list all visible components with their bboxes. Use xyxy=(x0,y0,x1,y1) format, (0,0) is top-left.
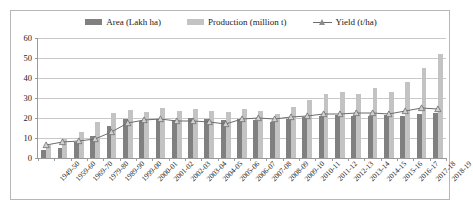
bar-production[interactable] xyxy=(193,109,198,158)
bar-production[interactable] xyxy=(177,111,182,158)
bar-production[interactable] xyxy=(79,132,84,158)
bar-production[interactable] xyxy=(46,145,51,158)
bar-group xyxy=(139,38,149,158)
bar-group xyxy=(188,38,198,158)
bar-group xyxy=(368,38,378,158)
plot-wrapper: 0102030405060 1949-501959-601969-701979-… xyxy=(11,31,451,199)
bar-group xyxy=(41,38,51,158)
bar-production[interactable] xyxy=(307,100,312,158)
bar-production[interactable] xyxy=(422,68,427,158)
y-axis-tick-label: 50 xyxy=(10,54,32,63)
bar-group xyxy=(253,38,263,158)
bar-production[interactable] xyxy=(62,139,67,158)
y-axis-tick-label: 40 xyxy=(10,74,32,83)
bar-production[interactable] xyxy=(258,111,263,158)
legend-label-area: Area (Lakh ha) xyxy=(106,17,161,27)
bar-group xyxy=(221,38,231,158)
legend-label-production: Production (million t) xyxy=(208,17,287,27)
area-swatch-icon xyxy=(85,19,102,25)
bar-group xyxy=(204,38,214,158)
chart-container: Area (Lakh ha) Production (million t) Yi… xyxy=(10,10,450,200)
x-axis-labels: 1949-501959-601969-701979-801989-901999-… xyxy=(37,160,445,199)
chart-legend: Area (Lakh ha) Production (million t) Yi… xyxy=(11,14,451,30)
bar-production[interactable] xyxy=(226,112,231,158)
bar-group xyxy=(433,38,443,158)
bar-production[interactable] xyxy=(242,109,247,158)
bar-production[interactable] xyxy=(340,92,345,158)
bar-production[interactable] xyxy=(324,94,329,158)
legend-item-production[interactable]: Production (million t) xyxy=(187,17,287,27)
x-tickmark xyxy=(446,158,447,161)
bar-group xyxy=(123,38,133,158)
bar-group xyxy=(172,38,182,158)
y-axis-tick-label: 20 xyxy=(10,114,32,123)
production-swatch-icon xyxy=(187,19,204,25)
bar-production[interactable] xyxy=(275,114,280,158)
bar-group xyxy=(384,38,394,158)
bar-production[interactable] xyxy=(389,92,394,158)
y-axis: 0102030405060 xyxy=(11,31,35,159)
legend-label-yield: Yield (t/ha) xyxy=(336,17,377,27)
bar-group xyxy=(351,38,361,158)
bar-production[interactable] xyxy=(373,88,378,158)
legend-item-yield[interactable]: Yield (t/ha) xyxy=(313,17,377,27)
bar-production[interactable] xyxy=(356,94,361,158)
bar-group xyxy=(400,38,410,158)
bar-group xyxy=(107,38,117,158)
bar-production[interactable] xyxy=(111,113,116,158)
bar-production[interactable] xyxy=(128,110,133,158)
yield-line-marker-icon xyxy=(313,18,332,26)
bar-group xyxy=(74,38,84,158)
y-axis-tick-label: 60 xyxy=(10,34,32,43)
bar-group xyxy=(335,38,345,158)
y-axis-tick-label: 0 xyxy=(10,154,32,163)
bar-group xyxy=(237,38,247,158)
y-axis-tick-label: 10 xyxy=(10,134,32,143)
bar-production[interactable] xyxy=(144,112,149,158)
bar-group xyxy=(319,38,329,158)
bar-group xyxy=(417,38,427,158)
bar-group xyxy=(270,38,280,158)
bars-layer xyxy=(38,38,446,158)
bar-production[interactable] xyxy=(209,111,214,158)
plot-area xyxy=(37,38,446,159)
bar-group xyxy=(90,38,100,158)
legend-item-area[interactable]: Area (Lakh ha) xyxy=(85,17,161,27)
bar-group xyxy=(286,38,296,158)
bar-production[interactable] xyxy=(405,82,410,158)
y-axis-tick-label: 30 xyxy=(10,94,32,103)
bar-production[interactable] xyxy=(438,54,443,158)
bar-group xyxy=(156,38,166,158)
bar-production[interactable] xyxy=(95,122,100,158)
bar-group xyxy=(58,38,68,158)
bar-production[interactable] xyxy=(160,108,165,158)
bar-group xyxy=(302,38,312,158)
bar-production[interactable] xyxy=(291,107,296,158)
